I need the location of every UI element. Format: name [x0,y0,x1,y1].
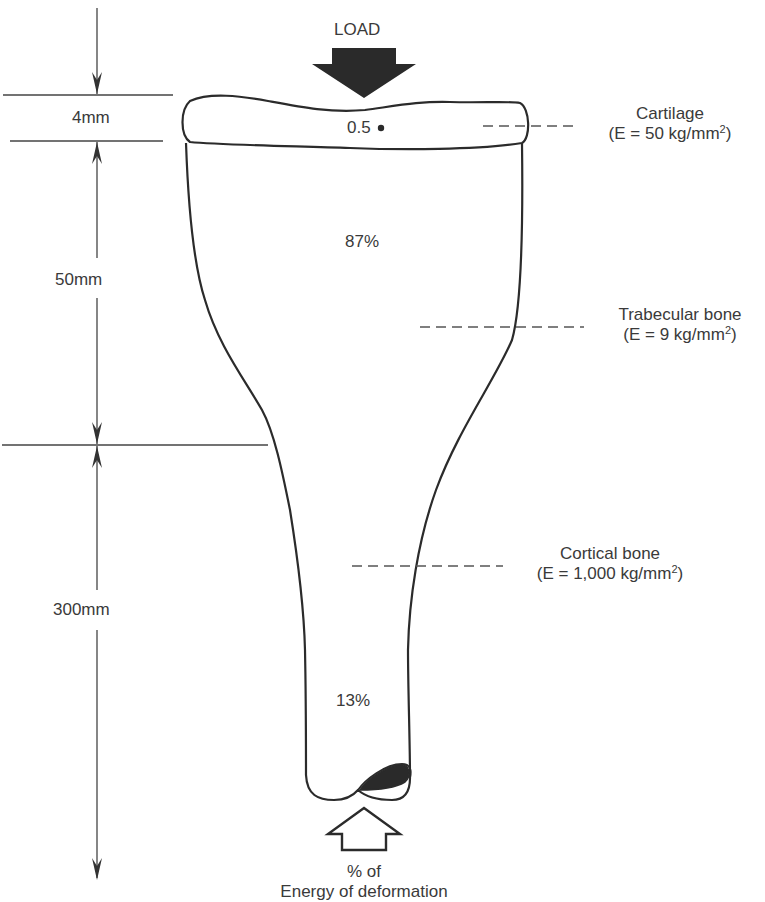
trabecular-label: Trabecular bone (E = 9 kg/mm2) [590,305,765,345]
leader-lines [352,126,584,566]
caption-line1: % of [264,862,464,882]
dimension-label-cartilage: 4mm [72,108,110,128]
load-label: LOAD [334,20,380,40]
trabecular-modulus: (E = 9 kg/mm2) [590,325,765,345]
dimension-label-trabecular: 50mm [55,270,102,290]
cartilage-name: Cartilage [580,104,760,124]
cartilage-value: 0.5 [347,118,371,138]
caption-line2: Energy of deformation [264,882,464,902]
cartilage-modulus: (E = 50 kg/mm2) [580,124,760,144]
cortical-modulus: (E = 1,000 kg/mm2) [510,564,710,584]
load-arrow-icon [312,48,416,98]
trabecular-value: 87% [345,232,379,252]
caption: % of Energy of deformation [264,862,464,902]
energy-arrow-icon [328,808,400,850]
trabecular-name: Trabecular bone [590,305,765,325]
cartilage-label: Cartilage (E = 50 kg/mm2) [580,104,760,144]
cartilage-dot [378,125,384,131]
cortical-name: Cortical bone [510,544,710,564]
cortical-value: 13% [336,691,370,711]
dimension-label-cortical: 300mm [53,600,110,620]
cortical-label: Cortical bone (E = 1,000 kg/mm2) [510,544,710,584]
